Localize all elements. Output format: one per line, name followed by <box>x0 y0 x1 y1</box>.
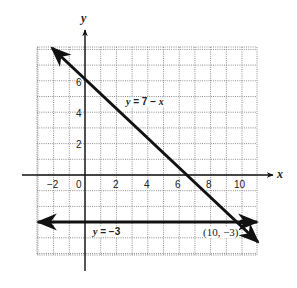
y-tick-label: 4 <box>76 109 82 119</box>
y-tick-label: 6 <box>76 78 82 88</box>
y-axis-label: y <box>81 12 86 24</box>
y-tick-label: 2 <box>76 140 82 150</box>
line2-equation-label: y = −3 <box>92 227 121 237</box>
intersection-point <box>240 220 245 225</box>
grid-border <box>37 47 257 255</box>
line1-x: x <box>159 96 164 107</box>
x-tick-label: −2 <box>47 180 58 190</box>
line-y-equals-7-minus-x <box>52 48 258 242</box>
coordinate-plane <box>0 0 297 288</box>
intersection-point-label: (10, −3) <box>203 227 239 238</box>
x-tick-label: 10 <box>234 180 245 190</box>
line1-rest: = 7 − <box>130 96 158 107</box>
line2-rest: = −3 <box>97 226 120 237</box>
x-tick-label: 8 <box>206 180 212 190</box>
x-tick-label: 4 <box>144 180 150 190</box>
x-tick-label: 2 <box>113 180 119 190</box>
line1-equation-label: y = 7 − x <box>125 97 165 107</box>
x-axis-label: x <box>277 168 283 180</box>
x-tick-label: 6 <box>175 180 181 190</box>
x-tick-label: 0 <box>76 180 82 190</box>
grid <box>37 47 257 255</box>
